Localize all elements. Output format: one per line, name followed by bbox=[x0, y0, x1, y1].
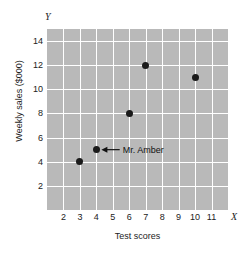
x-tick-label: 3 bbox=[72, 212, 88, 222]
y-tick-label: 2 bbox=[38, 181, 43, 191]
x-tick-label: 2 bbox=[55, 212, 71, 222]
y-axis-tick-labels: 2468101214 bbox=[25, 29, 43, 210]
x-tick-label: 7 bbox=[138, 212, 154, 222]
x-axis-symbol: X bbox=[231, 211, 237, 222]
y-tick-label: 10 bbox=[33, 84, 43, 94]
x-tick-label: 9 bbox=[171, 212, 187, 222]
y-tick-label: 4 bbox=[38, 157, 43, 167]
gridline-horizontal bbox=[47, 138, 228, 139]
data-point bbox=[126, 110, 133, 117]
y-axis-symbol: Y bbox=[45, 11, 51, 22]
scatter-chart-figure: Y X Weekly sales ($000) Test scores 2468… bbox=[0, 0, 247, 257]
x-tick-label: 10 bbox=[187, 212, 203, 222]
annotation-arrow-icon bbox=[47, 29, 228, 210]
annotation-label: Mr. Amber bbox=[123, 145, 164, 155]
y-tick-label: 6 bbox=[38, 133, 43, 143]
y-tick-label: 14 bbox=[33, 36, 43, 46]
gridline-vertical bbox=[80, 29, 81, 210]
gridline-vertical bbox=[212, 29, 213, 210]
gridline-vertical bbox=[63, 29, 64, 210]
y-tick-label: 12 bbox=[33, 60, 43, 70]
x-tick-label: 11 bbox=[204, 212, 220, 222]
x-tick-label: 5 bbox=[105, 212, 121, 222]
gridline-horizontal bbox=[47, 65, 228, 66]
data-point bbox=[76, 158, 83, 165]
gridline-vertical bbox=[195, 29, 196, 210]
gridline-vertical bbox=[179, 29, 180, 210]
data-point bbox=[93, 146, 100, 153]
x-tick-label: 4 bbox=[88, 212, 104, 222]
data-point bbox=[192, 74, 199, 81]
gridline-horizontal bbox=[47, 113, 228, 114]
x-axis-tick-labels: 234567891011 bbox=[47, 212, 228, 226]
gridline-horizontal bbox=[47, 41, 228, 42]
gridline-horizontal bbox=[47, 186, 228, 187]
data-point bbox=[142, 62, 149, 69]
y-tick-label: 8 bbox=[38, 108, 43, 118]
plot-area: Mr. Amber bbox=[47, 29, 228, 210]
gridline-vertical bbox=[113, 29, 114, 210]
gridline-horizontal bbox=[47, 162, 228, 163]
gridline-vertical bbox=[146, 29, 147, 210]
gridline-horizontal bbox=[47, 89, 228, 90]
gridline-vertical bbox=[162, 29, 163, 210]
x-tick-label: 6 bbox=[121, 212, 137, 222]
x-axis-title: Test scores bbox=[47, 231, 228, 241]
y-axis-title: Weekly sales ($000) bbox=[14, 41, 24, 161]
gridline-vertical bbox=[96, 29, 97, 210]
gridline-vertical bbox=[129, 29, 130, 210]
x-tick-label: 8 bbox=[154, 212, 170, 222]
